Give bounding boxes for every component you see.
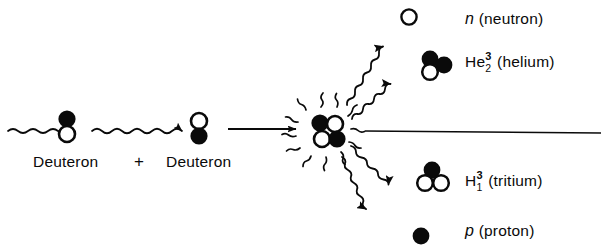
neutron-symbol: n — [465, 10, 474, 27]
tritium-superscript: 3 — [476, 170, 482, 181]
product-tritium-cluster — [417, 162, 449, 191]
compound-nucleus — [311, 114, 345, 147]
label-helium: He32 (helium) — [465, 52, 555, 75]
label-plus-sign: + — [134, 152, 144, 172]
tritium-symbol: H — [465, 172, 476, 189]
helium-mass-charge: 32 — [485, 51, 491, 74]
product-neutron-particle — [401, 9, 416, 24]
outgoing-path-helium — [352, 84, 391, 119]
incoming-wave-right — [92, 129, 182, 134]
label-deuteron-right: Deuteron — [166, 153, 231, 171]
product-helium-cluster — [422, 51, 453, 80]
helium-subscript: 2 — [485, 63, 491, 74]
helium-superscript: 3 — [485, 51, 491, 62]
helium-name: (helium) — [497, 53, 555, 70]
neutron-name: (neutron) — [479, 10, 544, 27]
outgoing-path-tritium — [351, 146, 389, 185]
proton-name: (proton) — [479, 222, 535, 239]
label-deuteron-left: Deuteron — [33, 153, 98, 171]
label-neutron: n (neutron) — [465, 10, 543, 28]
label-proton: p (proton) — [465, 222, 535, 240]
proton-symbol: p — [465, 222, 474, 239]
tritium-mass-charge: 31 — [476, 170, 482, 193]
diagram-canvas — [0, 0, 608, 251]
outgoing-path-neutron — [347, 47, 383, 106]
label-tritium: H31 (tritium) — [465, 171, 543, 194]
tritium-subscript: 1 — [476, 182, 482, 193]
fusion-diagram: Deuteron + Deuteron n (neutron) He32 (he… — [0, 0, 608, 251]
tritium-name: (tritium) — [488, 172, 542, 189]
deuteron-right-particle — [190, 113, 207, 145]
axis-reference-line — [365, 131, 601, 133]
helium-symbol: He — [465, 53, 485, 70]
product-proton-particle — [413, 228, 430, 245]
deuteron-left-particle — [58, 110, 75, 142]
